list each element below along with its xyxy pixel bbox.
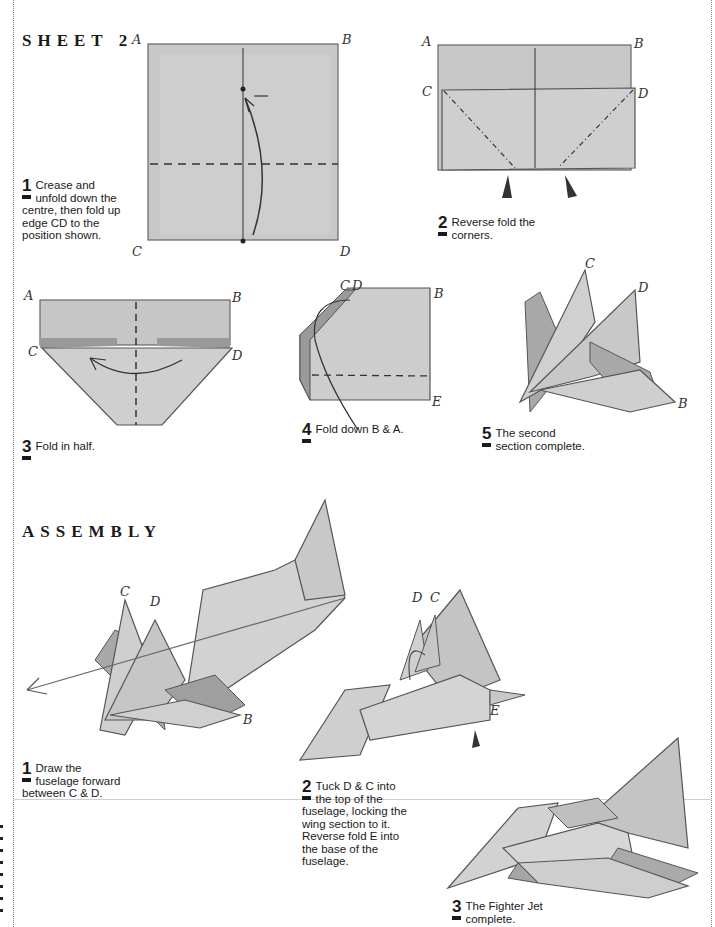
svg-text:D: D: [637, 280, 649, 295]
sheet-step-2: 2 Reverse fold the corners.: [438, 216, 638, 241]
sheet-step-3: 3 Fold in half.: [22, 440, 172, 454]
svg-text:E: E: [489, 703, 500, 718]
svg-text:D: D: [411, 590, 423, 605]
figure-step-5-section-complete: C D B: [500, 262, 700, 432]
svg-text:A: A: [421, 34, 431, 49]
svg-text:C: C: [422, 84, 432, 99]
figure-step-4-fold-down: C D B E: [290, 280, 460, 430]
svg-text:D: D: [231, 348, 243, 363]
page-margin-left: [13, 0, 14, 927]
svg-text:B: B: [633, 36, 644, 51]
svg-text:C: C: [28, 344, 38, 359]
svg-text:B: B: [433, 286, 444, 301]
label-b: B: [341, 32, 352, 47]
svg-text:A: A: [23, 288, 33, 303]
svg-text:E: E: [431, 394, 442, 409]
label-c: C: [132, 244, 142, 259]
label-a: A: [131, 32, 141, 47]
svg-text:B: B: [231, 290, 242, 305]
figure-step-3-fold-half: A B C D: [22, 288, 262, 428]
figure-step-2-reverse-fold: A B C D: [420, 30, 660, 210]
side-marks: [0, 825, 4, 925]
sheet-step-1: 1 Crease and unfold down the centre, the…: [22, 179, 132, 242]
svg-text:C: C: [585, 256, 595, 271]
sheet-step-4: 4 Fold down B & A.: [302, 423, 452, 437]
svg-text:B: B: [677, 396, 688, 411]
svg-text:C: C: [340, 278, 350, 293]
svg-text:D: D: [149, 594, 161, 609]
figure-assembly-3-fighter-jet: [448, 738, 708, 898]
figure-step-1-square: A B C D: [130, 30, 350, 260]
svg-text:B: B: [242, 712, 253, 727]
svg-text:C: C: [120, 584, 130, 599]
assembly-step-1: 1 Draw the fuselage forward between C & …: [22, 762, 172, 800]
page-margin-right: [711, 0, 712, 927]
svg-text:D: D: [351, 278, 363, 293]
label-d: D: [339, 244, 351, 259]
sheet-title: SHEET 2: [22, 31, 133, 51]
svg-text:D: D: [637, 86, 649, 101]
sheet-step-5: 5 The second section complete.: [482, 427, 682, 452]
assembly-step-3: 3 The Fighter Jet complete.: [452, 900, 652, 925]
svg-text:C: C: [430, 590, 440, 605]
